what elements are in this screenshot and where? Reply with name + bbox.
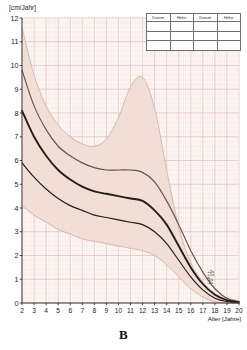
y-tick-label: 8 [14, 109, 18, 118]
x-tick-label: 10 [115, 307, 123, 314]
x-tick-label: 14 [163, 307, 171, 314]
table-row[interactable] [147, 41, 241, 51]
y-tick-label: 7 [14, 132, 18, 141]
y-tick-label: 1 [14, 275, 18, 284]
x-tick-label: 7 [80, 307, 84, 314]
table-cell[interactable] [194, 41, 218, 51]
measurement-record-table[interactable]: Datum Höhe Datum Höhe [146, 13, 241, 51]
x-tick-label: 6 [68, 307, 72, 314]
x-tick-label: 9 [105, 307, 109, 314]
y-tick-label: 9 [14, 85, 18, 94]
table-cell[interactable] [147, 31, 171, 41]
table-cell[interactable] [217, 41, 241, 51]
x-tick-label: 18 [211, 307, 219, 314]
growth-velocity-figure: 0123456789101112234567891011121314151617… [0, 0, 247, 350]
table-body [147, 22, 241, 51]
x-axis-ticks: 234567891011121314151617181920 [20, 303, 243, 314]
y-tick-label: 10 [10, 61, 18, 70]
table-cell[interactable] [217, 31, 241, 41]
y-axis-ticks: 0123456789101112 [10, 14, 22, 308]
y-tick-label: 6 [14, 156, 18, 165]
x-tick-label: 12 [139, 307, 147, 314]
y-tick-label: 11 [11, 37, 18, 46]
table-cell[interactable] [147, 41, 171, 51]
figure-caption: B [0, 327, 247, 343]
table-row[interactable] [147, 31, 241, 41]
table-cell[interactable] [217, 22, 241, 32]
y-tick-label: 4 [14, 204, 18, 213]
table-header-hoehe-2: Höhe [217, 14, 241, 22]
band-label-2s: -2s [207, 280, 214, 285]
table-header-hoehe-1: Höhe [170, 14, 194, 22]
y-axis-unit-label: [cm/Jahr] [9, 4, 36, 12]
y-tick-label: 2 [14, 251, 18, 260]
table-header-datum-2: Datum [194, 14, 218, 22]
x-tick-label: 8 [92, 307, 96, 314]
x-tick-label: 4 [44, 307, 48, 314]
x-tick-label: 11 [127, 307, 134, 314]
table-cell[interactable] [170, 22, 194, 32]
x-tick-label: 15 [175, 307, 183, 314]
table-cell[interactable] [194, 22, 218, 32]
x-tick-label: 2 [20, 307, 24, 314]
table-header-datum-1: Datum [147, 14, 171, 22]
x-tick-label: 19 [223, 307, 231, 314]
y-tick-label: 0 [14, 299, 18, 308]
x-tick-label: 13 [151, 307, 159, 314]
table-row[interactable] [147, 22, 241, 32]
x-tick-label: 3 [32, 307, 36, 314]
x-axis-title: Alter [Jahre] [208, 315, 242, 322]
x-tick-label: 20 [235, 307, 243, 314]
table-cell[interactable] [147, 22, 171, 32]
table-header-row: Datum Höhe Datum Höhe [147, 14, 241, 22]
y-tick-label: 5 [14, 180, 18, 189]
x-tick-label: 16 [187, 307, 195, 314]
table-cell[interactable] [170, 31, 194, 41]
x-tick-label: 5 [56, 307, 60, 314]
y-tick-label: 12 [10, 14, 18, 23]
table-cell[interactable] [194, 31, 218, 41]
growth-velocity-chart: 0123456789101112234567891011121314151617… [0, 0, 247, 350]
table-cell[interactable] [170, 41, 194, 51]
x-tick-label: 17 [199, 307, 207, 314]
y-tick-label: 3 [14, 227, 18, 236]
